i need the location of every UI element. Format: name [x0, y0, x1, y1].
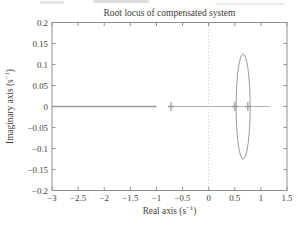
y-axis-label-superscript: −1 [3, 72, 10, 79]
x-tick-label: 0 [206, 193, 210, 203]
root-locus-figure: Root locus of compensated system −3−2.5−… [0, 0, 299, 227]
chart-title: Root locus of compensated system [52, 8, 287, 18]
x-axis-label-text: Real axis (s [143, 206, 186, 216]
x-tick-label: −1 [152, 193, 161, 203]
x-axis-label-close: ) [193, 206, 196, 216]
x-tick-label: −2 [100, 193, 109, 203]
x-tick-label: −2.5 [70, 193, 86, 203]
x-tick-label: −0.5 [175, 193, 191, 203]
x-axis-label: Real axis (s−1) [52, 204, 287, 216]
x-tick-label: −1.5 [122, 193, 138, 203]
y-tick-label: −0.2 [0, 186, 48, 196]
x-tick-label: 0.5 [229, 193, 240, 203]
y-axis-label-text: Imaginary axis (s [5, 79, 15, 144]
y-tick-label: 0.2 [0, 18, 48, 28]
x-tick-label: −3 [47, 193, 56, 203]
y-axis-label-close: ) [5, 69, 15, 72]
x-tick-label: 1 [259, 193, 263, 203]
y-axis-label: Imaginary axis (s−1) [3, 37, 16, 177]
x-tick-label: 1.5 [282, 193, 293, 203]
